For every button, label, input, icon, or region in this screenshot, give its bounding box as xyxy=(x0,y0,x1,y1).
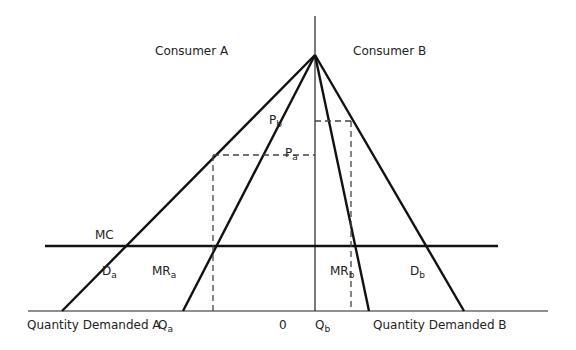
da-label: Da xyxy=(102,264,117,282)
demand-a-line xyxy=(62,55,315,311)
pb-label: Pb xyxy=(269,113,282,131)
diagram-canvas xyxy=(0,0,576,350)
origin-label: 0 xyxy=(279,318,287,332)
pa-label: Pa xyxy=(285,146,298,164)
quantity-demanded-b-label: Quantity Demanded B xyxy=(373,318,507,332)
consumer-b-label: Consumer B xyxy=(353,44,426,58)
consumer-a-label: Consumer A xyxy=(155,44,228,58)
mra-label: MRa xyxy=(152,264,176,282)
mrb-label: MRb xyxy=(330,264,354,282)
qa-label: Qa xyxy=(158,318,173,336)
qb-label: Qb xyxy=(315,318,330,336)
db-label: Db xyxy=(410,264,425,282)
mc-label: MC xyxy=(95,228,114,242)
quantity-demanded-a-label: Quantity Demanded A xyxy=(27,318,161,332)
mr-a-line xyxy=(183,55,315,311)
